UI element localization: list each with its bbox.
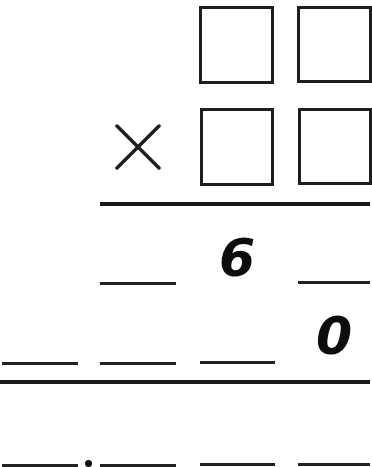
partial-1-ones-blank[interactable] xyxy=(298,281,370,284)
multiplicand-ones-box[interactable] xyxy=(297,6,372,83)
final-ones-blank[interactable] xyxy=(298,463,370,466)
partial-1-tens-digit: 6 xyxy=(208,232,266,284)
partial-2-ones-digit: 0 xyxy=(305,310,363,362)
multiplier-ones-box[interactable] xyxy=(298,108,372,185)
partial-1-hundreds-blank[interactable] xyxy=(100,282,176,285)
partial-2-hundreds-blank[interactable] xyxy=(100,362,176,365)
partial-2-tens-blank[interactable] xyxy=(200,361,275,364)
partial-2-thousands-blank[interactable] xyxy=(2,362,78,365)
sum-rule-line xyxy=(0,380,370,384)
multiplier-tens-box[interactable] xyxy=(200,108,274,186)
product-rule-line xyxy=(100,202,370,206)
multiply-icon xyxy=(115,124,161,170)
final-tens-blank[interactable] xyxy=(200,463,275,466)
multiplicand-tens-box[interactable] xyxy=(199,6,274,84)
separator-dot-icon xyxy=(85,460,92,467)
